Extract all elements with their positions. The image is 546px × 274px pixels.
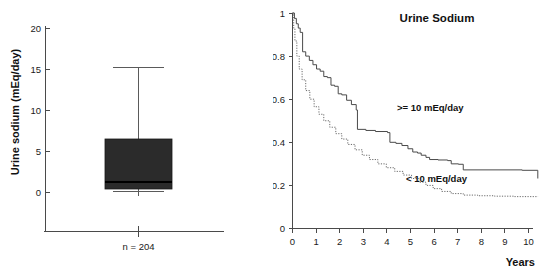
boxplot-svg: 20 15 10 5 0 Urine sodium (mEq/day) xyxy=(0,0,273,274)
km-chart-title: Urine Sodium xyxy=(400,12,475,24)
km-xtick-9: 9 xyxy=(502,236,507,247)
km-xtick-2: 2 xyxy=(337,236,342,247)
boxplot-ytick-10: 10 xyxy=(30,105,41,116)
km-xtick-0: 0 xyxy=(290,236,295,247)
figure-container: 20 15 10 5 0 Urine sodium (mEq/day) xyxy=(0,0,546,274)
km-xtick-5: 5 xyxy=(408,236,413,247)
km-xtick-4: 4 xyxy=(384,236,389,247)
km-annotation-low: < 10 mEq/day xyxy=(406,173,468,184)
km-xtick-1: 1 xyxy=(313,236,318,247)
km-xtick-10: 10 xyxy=(523,236,534,247)
km-xtick-6: 6 xyxy=(431,236,436,247)
km-x-ticks xyxy=(293,229,529,234)
km-ytick-02: 0.2 xyxy=(273,180,285,191)
km-ytick-06: 0.6 xyxy=(273,94,285,105)
boxplot-panel: 20 15 10 5 0 Urine sodium (mEq/day) xyxy=(0,0,273,274)
boxplot-ytick-5: 5 xyxy=(36,146,41,157)
km-xtick-3: 3 xyxy=(361,236,366,247)
km-xtick-8: 8 xyxy=(479,236,484,247)
km-curve-high-sodium xyxy=(293,13,538,179)
boxplot-ytick-20: 20 xyxy=(30,23,41,34)
boxplot-sample-size-label: n = 204 xyxy=(123,241,155,252)
km-x-axis-title: Years xyxy=(506,256,535,268)
km-ytick-04: 0.4 xyxy=(273,137,285,148)
kaplan-meier-panel: Urine Sodium 1 0.8 0.6 0.4 0.2 0 Surviva… xyxy=(273,0,546,274)
km-xtick-7: 7 xyxy=(455,236,460,247)
km-ytick-08: 0.8 xyxy=(273,51,285,62)
boxplot-box-group xyxy=(105,68,172,197)
km-ytick-0: 0 xyxy=(280,223,285,234)
boxplot-y-ticks xyxy=(46,29,50,193)
kaplan-meier-svg: Urine Sodium 1 0.8 0.6 0.4 0.2 0 Surviva… xyxy=(273,0,546,274)
km-annotation-high: >= 10 mEq/day xyxy=(397,102,464,113)
km-ytick-1: 1 xyxy=(280,8,285,19)
boxplot-ytick-15: 15 xyxy=(30,64,41,75)
boxplot-y-axis-title: Urine sodium (mEq/day) xyxy=(9,48,21,175)
boxplot-ytick-0: 0 xyxy=(36,187,41,198)
